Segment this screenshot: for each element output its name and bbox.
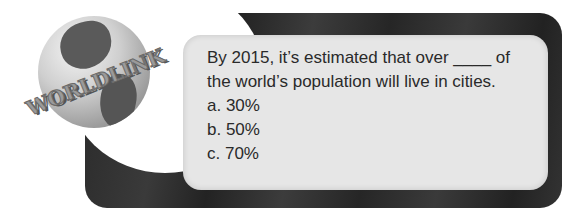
- question-panel: By 2015, it’s estimated that over ____ o…: [183, 35, 548, 190]
- option-b: b. 50%: [207, 118, 547, 142]
- question-line-1: By 2015, it’s estimated that over ____ o…: [207, 46, 547, 70]
- question-line-2: the world’s population will live in citi…: [207, 70, 547, 94]
- option-c: c. 70%: [207, 142, 547, 166]
- worldlink-logo: WORLDLINK: [18, 12, 153, 147]
- option-a: a. 30%: [207, 94, 547, 118]
- question-text: By 2015, it’s estimated that over ____ o…: [207, 46, 547, 166]
